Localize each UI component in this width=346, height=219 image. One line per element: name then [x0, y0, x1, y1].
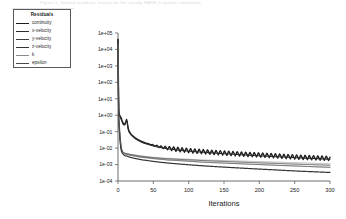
x-tick-label: 300	[325, 187, 334, 193]
series-line-continuity	[118, 40, 330, 161]
x-tick-label: 50	[150, 187, 156, 193]
series-line-k	[118, 44, 330, 163]
series-line-x-velocity	[118, 40, 330, 160]
x-tick-label: 100	[184, 187, 193, 193]
x-tick-label: 0	[116, 187, 119, 193]
residuals-plot-figure: Figure 1. Scaled residuals history for t…	[0, 0, 346, 219]
y-tick-label: 1e+03	[98, 63, 113, 69]
y-tick-label: 1e+04	[98, 46, 113, 52]
chart-canvas: 1e+051e+041e+031e+021e+011e+001e-011e-02…	[0, 0, 346, 219]
x-tick-label: 250	[290, 187, 299, 193]
y-tick-label: 1e-03	[99, 161, 112, 167]
y-tick-label: 1e+02	[98, 79, 113, 85]
y-tick-label: 1e+00	[98, 112, 113, 118]
y-tick-label: 1e+05	[98, 30, 113, 36]
series-line-y-velocity	[118, 42, 330, 168]
x-tick-label: 150	[219, 187, 228, 193]
y-tick-label: 1e+01	[98, 96, 113, 102]
y-tick-label: 1e-01	[99, 129, 112, 135]
x-axis-title: Iterations	[208, 199, 239, 208]
y-tick-label: 1e-04	[99, 178, 112, 184]
x-tick-label: 200	[255, 187, 264, 193]
y-tick-label: 1e-02	[99, 145, 112, 151]
series-line-epsilon	[118, 43, 330, 165]
